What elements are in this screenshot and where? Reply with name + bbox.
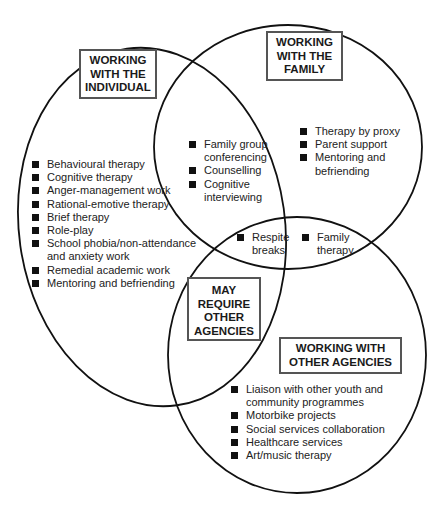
- item-text: Family therapy: [317, 231, 354, 256]
- individual-title-line: INDIVIDUAL: [85, 81, 151, 95]
- list-item: Remedial academic work: [32, 264, 196, 277]
- family-item-list: Therapy by proxy Parent support Mentorin…: [300, 125, 400, 178]
- square-bullet-icon: [231, 412, 238, 419]
- square-bullet-icon: [237, 234, 244, 241]
- family-title-line: WITH THE: [272, 50, 337, 64]
- list-item: Liaison with other youth and community p…: [231, 383, 385, 409]
- family-title-box: WORKING WITH THE FAMILY: [266, 31, 343, 81]
- individual-title-line: WORKING: [85, 54, 151, 68]
- square-bullet-icon: [32, 267, 39, 274]
- square-bullet-icon: [231, 426, 238, 433]
- overlap-title-line: REQUIRE: [193, 298, 255, 312]
- square-bullet-icon: [189, 181, 196, 188]
- item-text: Brief therapy: [47, 211, 109, 223]
- square-bullet-icon: [32, 240, 39, 247]
- list-item: Social services collaboration: [231, 423, 385, 436]
- agencies-title-line: WORKING WITH: [285, 342, 396, 356]
- list-item: Cognitive therapy: [32, 171, 196, 184]
- item-text: Parent support: [315, 138, 387, 150]
- list-item: Therapy by proxy: [300, 125, 400, 138]
- square-bullet-icon: [231, 452, 238, 459]
- overlap-title-line: OTHER: [193, 311, 255, 325]
- family-title-line: WORKING: [272, 36, 337, 50]
- family-agencies-overlap-list: Family therapy: [302, 231, 354, 257]
- square-bullet-icon: [231, 386, 238, 393]
- item-text: Remedial academic work: [47, 264, 170, 276]
- may-require-other-agencies-box: MAY REQUIRE OTHER AGENCIES: [187, 277, 261, 341]
- item-text: Art/music therapy: [246, 449, 332, 461]
- item-text: Behavioural therapy: [47, 158, 145, 170]
- item-text: Cognitive therapy: [47, 171, 133, 183]
- list-item: Behavioural therapy: [32, 158, 196, 171]
- list-item: Brief therapy: [32, 211, 196, 224]
- overlap-title-line: MAY: [193, 284, 255, 298]
- square-bullet-icon: [32, 161, 39, 168]
- item-text: Anger-management work: [47, 184, 171, 196]
- list-item: Anger-management work: [32, 184, 196, 197]
- item-text: Motorbike projects: [246, 409, 336, 421]
- individual-title-box: WORKING WITH THE INDIVIDUAL: [79, 49, 157, 99]
- list-item: Cognitive interviewing: [189, 178, 268, 204]
- item-text: Healthcare services: [246, 436, 343, 448]
- square-bullet-icon: [300, 154, 307, 161]
- agencies-title-line: OTHER AGENCIES: [285, 356, 396, 370]
- item-text: Counselling: [204, 164, 261, 176]
- item-text: Family group conferencing: [204, 138, 268, 163]
- list-item: Family group conferencing: [189, 138, 268, 164]
- list-item: School phobia/non-attendance and anxiety…: [32, 237, 196, 263]
- square-bullet-icon: [32, 174, 39, 181]
- overlap-title-line: AGENCIES: [193, 325, 255, 339]
- agencies-title-box: WORKING WITH OTHER AGENCIES: [279, 337, 402, 374]
- square-bullet-icon: [32, 280, 39, 287]
- individual-family-overlap-list: Family group conferencing Counselling Co…: [189, 138, 268, 204]
- item-text: Social services collaboration: [246, 423, 385, 435]
- list-item: Healthcare services: [231, 436, 385, 449]
- item-text: Mentoring and befriending: [315, 151, 385, 176]
- list-item: Counselling: [189, 164, 268, 177]
- all-three-overlap-list: Respite breaks: [237, 231, 289, 257]
- individual-item-list: Behavioural therapy Cognitive therapy An…: [32, 158, 196, 290]
- square-bullet-icon: [300, 128, 307, 135]
- item-text: Liaison with other youth and community p…: [246, 383, 383, 408]
- agencies-item-list: Liaison with other youth and community p…: [231, 383, 385, 462]
- square-bullet-icon: [32, 201, 39, 208]
- family-title-line: FAMILY: [272, 63, 337, 77]
- list-item: Motorbike projects: [231, 409, 385, 422]
- individual-title-line: WITH THE: [85, 68, 151, 82]
- square-bullet-icon: [300, 141, 307, 148]
- item-text: Respite breaks: [252, 231, 289, 256]
- list-item: Mentoring and befriending: [300, 151, 400, 177]
- square-bullet-icon: [32, 227, 39, 234]
- list-item: Parent support: [300, 138, 400, 151]
- square-bullet-icon: [189, 167, 196, 174]
- square-bullet-icon: [189, 141, 196, 148]
- item-text: Role-play: [47, 224, 93, 236]
- item-text: Cognitive interviewing: [204, 178, 262, 203]
- list-item: Mentoring and befriending: [32, 277, 196, 290]
- list-item: Art/music therapy: [231, 449, 385, 462]
- square-bullet-icon: [302, 234, 309, 241]
- item-text: Rational-emotive therapy: [47, 198, 169, 210]
- list-item: Respite breaks: [237, 231, 289, 257]
- list-item: Rational-emotive therapy: [32, 198, 196, 211]
- list-item: Family therapy: [302, 231, 354, 257]
- item-text: Therapy by proxy: [315, 125, 400, 137]
- item-text: Mentoring and befriending: [47, 277, 175, 289]
- square-bullet-icon: [32, 187, 39, 194]
- square-bullet-icon: [231, 439, 238, 446]
- square-bullet-icon: [32, 214, 39, 221]
- item-text: School phobia/non-attendance and anxiety…: [47, 237, 196, 262]
- list-item: Role-play: [32, 224, 196, 237]
